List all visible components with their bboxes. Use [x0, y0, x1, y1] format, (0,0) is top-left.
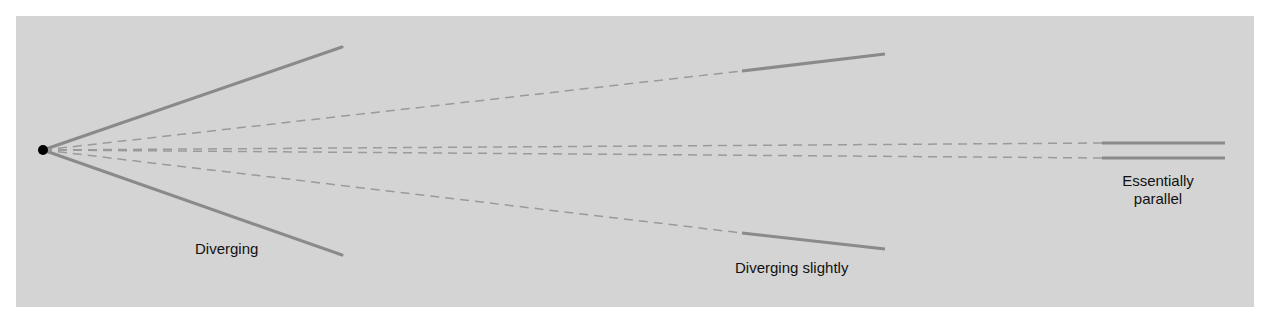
diverging-ray-upper: [43, 47, 342, 150]
parallel-ray-lower-dashed: [43, 150, 1102, 158]
slight-ray-upper-dashed: [43, 71, 742, 150]
rays-diagram: [0, 0, 1268, 321]
diverging-ray-lower: [43, 150, 342, 255]
parallel-ray-upper-dashed: [43, 143, 1102, 150]
slight-ray-upper: [742, 54, 885, 71]
label-diverging: Diverging: [195, 240, 258, 258]
slight-ray-lower: [742, 233, 885, 249]
label-parallel-line2: parallel: [1108, 190, 1208, 208]
parallel-rays: [43, 143, 1225, 158]
diverging-rays: [43, 47, 342, 255]
label-diverging-slightly: Diverging slightly: [735, 259, 848, 277]
point-source: [38, 145, 48, 155]
label-parallel-line1: Essentially: [1108, 172, 1208, 190]
label-essentially-parallel: Essentially parallel: [1108, 172, 1208, 208]
slight-ray-lower-dashed: [43, 150, 742, 233]
